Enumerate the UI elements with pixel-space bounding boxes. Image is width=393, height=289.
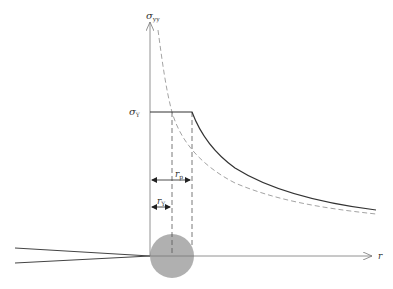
elastic-stress-curve [158,30,376,214]
rp-label: rp [175,169,183,181]
crack-upper-face [15,248,150,256]
x-axis-label: r [378,251,383,261]
ry-label: rY [157,196,166,207]
plastic-zone-diagram: σyy σY rp rY r [0,0,393,289]
crack-lower-face [15,256,150,263]
plastic-stress-curve [150,112,376,210]
y-axis-label: σyy [146,10,160,23]
yield-stress-label: σY [129,106,141,118]
